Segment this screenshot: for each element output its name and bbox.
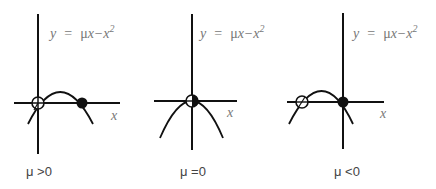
panel-mu-zero: y=μx−x2 x μ =0 (154, 14, 265, 179)
equation-label: y=μx−x2 (48, 23, 115, 41)
caption-mu-zero: μ =0 (180, 164, 206, 179)
transcritical-bifurcation-diagram: y=μx−x2 x μ >0 y=μx−x2 x μ =0 y=μx−x2 x … (0, 0, 436, 189)
panel-mu-positive: y=μx−x2 x μ >0 (14, 14, 120, 179)
x-axis-label: x (226, 105, 234, 120)
equation-label: y=μx−x2 (198, 23, 265, 41)
panel-mu-negative: y=μx−x2 x μ <0 (287, 13, 418, 179)
stable-fixed-point-filled-dot (338, 97, 349, 108)
caption-mu-negative: μ <0 (334, 164, 360, 179)
x-axis-label: x (110, 108, 118, 123)
equation-label: y=μx−x2 (351, 23, 418, 41)
x-axis-label: x (379, 106, 387, 121)
caption-mu-positive: μ >0 (26, 164, 52, 179)
stable-fixed-point-filled-dot (77, 98, 88, 109)
